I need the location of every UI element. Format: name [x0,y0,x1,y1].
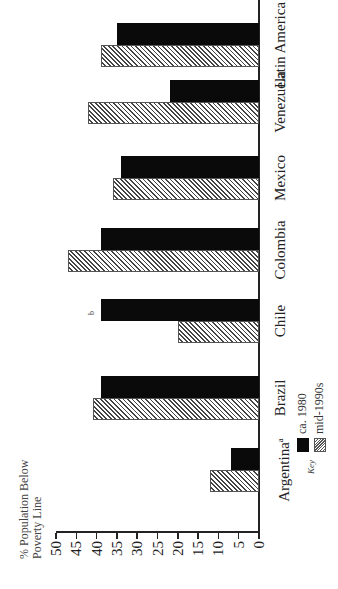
y-axis-title: % Population Below Poverty Line [18,460,44,559]
y-axis-title-line2: Poverty Line [31,460,44,559]
y-tick-label: 35 [109,541,125,569]
y-tick-mark [96,533,98,539]
legend-label-mid-1990s: mid-1990s [313,383,326,434]
bar-ca-1980 [101,228,259,250]
y-tick-mark [136,533,138,539]
bar-ca-1980 [101,376,259,398]
legend: Key ca. 1980 mid-1990s [292,374,338,474]
poverty-bar-chart: % Population Below Poverty Line 05101520… [0,0,338,589]
bar-mid-1990s [68,250,259,272]
y-tick-label: 15 [190,541,206,569]
y-tick-mark [238,533,240,539]
bar-mid-1990s [88,102,259,124]
y-tick-mark [197,533,199,539]
y-tick-mark [76,533,78,539]
y-tick-mark [218,533,220,539]
y-tick-label: 25 [150,541,166,569]
legend-swatch-mid-1990s [314,438,326,452]
bar-mid-1990s [113,178,259,200]
y-tick-mark [177,533,179,539]
y-tick-mark [157,533,159,539]
category-label: Latin America [272,0,288,95]
y-tick-label: 0 [251,541,267,569]
y-tick-label: 5 [231,541,247,569]
bar-ca-1980 [170,80,259,102]
bar-mid-1990s [178,321,259,343]
y-tick-mark [55,533,57,539]
y-tick-label: 50 [48,541,64,569]
y-tick-mark [116,533,118,539]
y-tick-label: 30 [129,541,145,569]
bar-mid-1990s [210,470,259,492]
legend-swatch-ca-1980 [297,438,309,452]
y-tick-label: 40 [89,541,105,569]
y-tick-label: 10 [210,541,226,569]
bar-ca-1980 [231,448,259,470]
chile-footnote-b: b [87,311,96,315]
y-tick-label: 45 [68,541,84,569]
bar-ca-1980 [121,156,259,178]
y-tick-label: 20 [170,541,186,569]
legend-label-ca-1980: ca. 1980 [296,393,309,434]
bar-ca-1980 [101,299,259,321]
bar-mid-1990s [93,398,259,420]
bar-mid-1990s [101,45,259,67]
bar-ca-1980 [117,23,259,45]
legend-key-label: Key [306,460,316,474]
y-tick-mark [258,533,260,539]
